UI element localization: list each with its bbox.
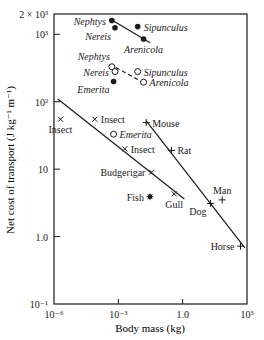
plus-marker bbox=[237, 243, 244, 250]
cross-marker bbox=[58, 117, 63, 122]
log-log-chart: 10⁻⁶10⁻³1.010³10⁻¹1.01010²10³2 × 10³ Nep… bbox=[0, 0, 264, 340]
point-label: Nephtys bbox=[77, 51, 110, 62]
asterisk-marker bbox=[147, 193, 154, 200]
point-label: Arenicola bbox=[123, 44, 163, 55]
point-label: Mouse bbox=[152, 118, 180, 129]
x-tick-label: 10⁻⁶ bbox=[45, 309, 64, 320]
point-label: Sipunculus bbox=[144, 67, 188, 78]
y-axis-title: Net cost of transport (J kg⁻¹ m⁻¹) bbox=[4, 86, 17, 234]
point-label: Insect bbox=[131, 144, 155, 155]
point-label: Budgerigar bbox=[100, 167, 146, 178]
point-label: Gull bbox=[165, 199, 183, 210]
filled-circle-marker bbox=[112, 25, 118, 31]
filled-circle-marker bbox=[135, 24, 141, 30]
x-tick-label: 1.0 bbox=[176, 309, 189, 320]
point-label: Rat bbox=[177, 145, 191, 156]
y-tick-label: 10⁻¹ bbox=[30, 299, 48, 310]
point-label: Nereis bbox=[84, 31, 111, 42]
y-tick-label: 2 × 10³ bbox=[19, 9, 48, 20]
point-label: Dog bbox=[189, 206, 206, 217]
point-label: Man bbox=[213, 185, 231, 196]
plus-marker bbox=[143, 119, 150, 126]
point-label: Insect bbox=[101, 114, 125, 125]
y-tick-label: 10 bbox=[38, 164, 48, 175]
y-tick-label: 10² bbox=[35, 97, 48, 108]
point-label: Horse bbox=[211, 241, 235, 252]
x-tick-label: 10³ bbox=[241, 309, 254, 320]
y-tick-label: 10³ bbox=[35, 29, 48, 40]
plus-marker bbox=[168, 147, 175, 154]
cross-marker bbox=[92, 117, 97, 122]
cross-marker bbox=[172, 191, 177, 196]
open-circle-marker bbox=[111, 131, 117, 137]
cross-marker bbox=[122, 146, 127, 151]
point-label: Emerita bbox=[119, 129, 152, 140]
filled-circle-marker bbox=[111, 79, 117, 85]
point-label: Arenicola bbox=[149, 77, 189, 88]
point-label: Nephtys bbox=[73, 16, 106, 27]
x-axis-title: Body mass (kg) bbox=[115, 322, 185, 335]
point-labels: NephtysNereisSipunculusArenicolaEmeritaN… bbox=[49, 16, 236, 253]
filled-circle-marker bbox=[141, 36, 147, 42]
open-circle-marker bbox=[112, 69, 118, 75]
y-tick-label: 1.0 bbox=[36, 232, 49, 243]
open-circle-marker bbox=[141, 79, 147, 85]
filled-circle-marker bbox=[109, 18, 115, 24]
point-label: Fish bbox=[127, 192, 144, 203]
x-tick-label: 10⁻³ bbox=[109, 309, 127, 320]
point-label: Sipunculus bbox=[144, 22, 188, 33]
open-circle-marker bbox=[135, 69, 141, 75]
plus-marker bbox=[219, 196, 226, 203]
point-label: Emerita bbox=[76, 84, 109, 95]
point-label: Nereis bbox=[82, 67, 109, 78]
point-label: Insect bbox=[49, 124, 73, 135]
